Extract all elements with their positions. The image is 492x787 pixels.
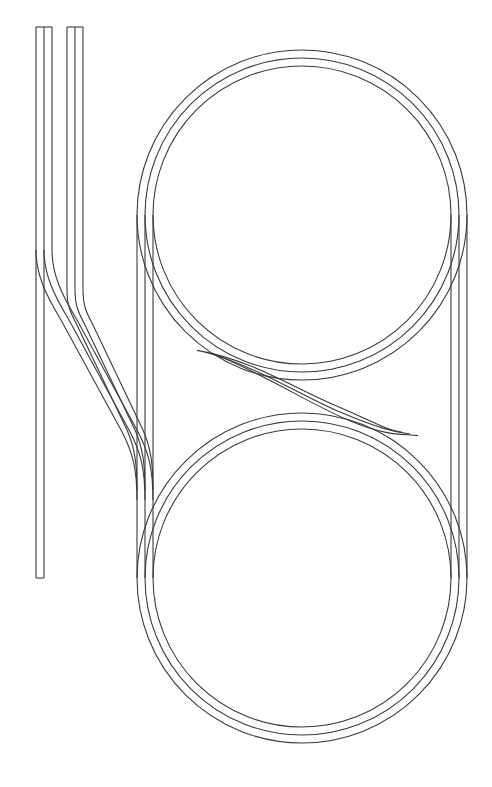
- track-loops: [137, 50, 467, 743]
- branch-a-rail-1: [44, 250, 145, 500]
- track-layout-svg: [0, 0, 492, 787]
- lower-loop-rail-1: [145, 421, 459, 735]
- branch-b-rail-2: [83, 290, 153, 490]
- track-layout-diagram: [0, 0, 492, 787]
- upper-loop-rail-0: [137, 50, 467, 380]
- lower-loop-rail-2: [153, 429, 451, 727]
- upper-loop-rail-1: [145, 58, 459, 372]
- lower-loop-rail-0: [137, 413, 467, 743]
- stub-spurs: [36, 27, 153, 578]
- upper-loop-rail-2: [153, 66, 451, 364]
- branch-a-rail-0: [36, 250, 137, 500]
- side-straights: [137, 215, 467, 578]
- branch-b-rail-1: [75, 290, 145, 490]
